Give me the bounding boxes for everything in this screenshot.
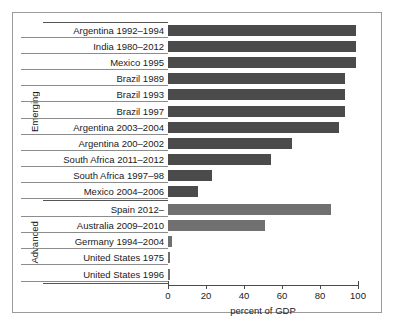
bar-track <box>168 168 371 184</box>
bar-track <box>168 120 371 136</box>
x-axis-tick <box>320 285 321 289</box>
x-axis-tick-label: 40 <box>229 290 259 301</box>
bar <box>168 220 265 231</box>
bar-row: United States 1975 <box>21 250 371 266</box>
bar-row: Brazil 1997 <box>21 104 371 120</box>
bar <box>168 236 172 247</box>
bar-row: Argentina 1992–1994 <box>21 23 371 39</box>
bar-row-label: Brazil 1993 <box>21 87 168 102</box>
bar-row: India 1980–2012 <box>21 39 371 55</box>
bar-track <box>168 267 371 283</box>
bar-row: Germany 1994–2004 <box>21 234 371 250</box>
x-axis-label: percent of GDP <box>168 305 358 316</box>
bar-row-label: Australia 2009–2010 <box>21 218 168 233</box>
bar <box>168 204 331 215</box>
bottom-rule <box>43 283 168 284</box>
x-axis-tick <box>168 285 169 289</box>
bar-row-label: South Africa 1997–98 <box>21 168 168 183</box>
bar-track <box>168 218 371 234</box>
bar-track <box>168 184 371 200</box>
x-axis-tick <box>282 285 283 289</box>
bar-row: United States 1996 <box>21 267 371 283</box>
bar <box>168 73 345 84</box>
bar-row-label: Germany 1994–2004 <box>21 234 168 249</box>
bar-row-label: United States 1996 <box>21 267 168 282</box>
bar-track <box>168 202 371 218</box>
bar <box>168 154 271 165</box>
bar-track <box>168 55 371 71</box>
x-axis-line <box>168 285 358 286</box>
x-axis-tick <box>244 285 245 289</box>
bar <box>168 89 345 100</box>
bar-row: Spain 2012– <box>21 202 371 218</box>
bar-track <box>168 234 371 250</box>
x-axis-tick-label: 100 <box>343 290 373 301</box>
bar-track <box>168 136 371 152</box>
bar-row: South Africa 1997–98 <box>21 168 371 184</box>
bar-row-label: Mexico 2004–2006 <box>21 184 168 199</box>
bar <box>168 186 198 197</box>
group-divider-rule <box>43 200 168 201</box>
bar-row-label: United States 1975 <box>21 250 168 265</box>
bar <box>168 57 356 68</box>
bar-row: Argentina 2003–2004 <box>21 120 371 136</box>
x-axis-tick <box>206 285 207 289</box>
bar <box>168 106 345 117</box>
bar <box>168 252 170 263</box>
bar-track <box>168 104 371 120</box>
bar-row: Argentina 200–2002 <box>21 136 371 152</box>
bar-row: Australia 2009–2010 <box>21 218 371 234</box>
bar <box>168 122 339 133</box>
bar-track <box>168 23 371 39</box>
bar-row-label: Mexico 1995 <box>21 55 168 70</box>
bar <box>168 138 292 149</box>
bar-track <box>168 71 371 87</box>
bar-row-label: India 1980–2012 <box>21 39 168 54</box>
x-axis-tick <box>358 285 359 289</box>
bar-row-label: Spain 2012– <box>21 202 168 217</box>
x-axis-tick-label: 0 <box>153 290 183 301</box>
bar <box>168 25 356 36</box>
chart-figure: Emerging Advanced Argentina 1992–1994Ind… <box>12 12 382 313</box>
bar <box>168 41 356 52</box>
bar-row-label: Argentina 1992–1994 <box>21 23 168 38</box>
x-axis-tick-label: 20 <box>191 290 221 301</box>
bar-row-label: Argentina 2003–2004 <box>21 120 168 135</box>
bar-row-label: Argentina 200–2002 <box>21 136 168 151</box>
bar-row-label: Brazil 1989 <box>21 71 168 86</box>
bar-track <box>168 250 371 266</box>
bar-track <box>168 39 371 55</box>
bar-row: Brazil 1993 <box>21 87 371 103</box>
bar <box>168 269 170 280</box>
bar-row: Brazil 1989 <box>21 71 371 87</box>
bar-row-label: South Africa 2011–2012 <box>21 152 168 167</box>
bar-row-label: Brazil 1997 <box>21 104 168 119</box>
x-axis-tick-label: 60 <box>267 290 297 301</box>
bar <box>168 170 212 181</box>
bar-row: Mexico 2004–2006 <box>21 184 371 200</box>
bar-track <box>168 152 371 168</box>
bar-row: South Africa 2011–2012 <box>21 152 371 168</box>
x-axis-tick-label: 80 <box>305 290 335 301</box>
chart-plot-area: Emerging Advanced Argentina 1992–1994Ind… <box>13 13 381 312</box>
bar-row: Mexico 1995 <box>21 55 371 71</box>
bar-track <box>168 87 371 103</box>
